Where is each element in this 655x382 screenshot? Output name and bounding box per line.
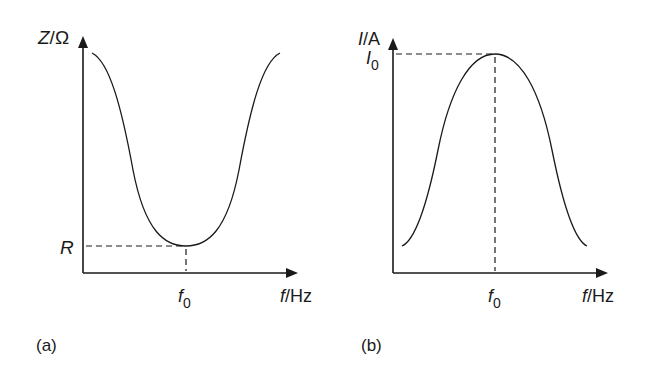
- x-axis-label-b: f/Hz: [582, 286, 614, 306]
- f0-marker-label-b: f0: [488, 286, 501, 311]
- x-axis-label-a: f/Hz: [280, 286, 312, 306]
- panel-b-caption: (b): [361, 336, 382, 355]
- y-axis-arrow-b: [388, 38, 398, 50]
- x-axis-arrow-b: [596, 268, 608, 278]
- y-axis-label-b: I/A: [358, 29, 380, 49]
- i0-marker-label: I0: [366, 48, 379, 73]
- f0-marker-label-a: f0: [178, 286, 191, 311]
- panel-a-caption: (a): [36, 336, 57, 355]
- panel-a: Z/Ω R f0 f/Hz (a): [36, 27, 312, 355]
- x-axis-arrow-a: [286, 268, 298, 278]
- resonance-figure: Z/Ω R f0 f/Hz (a) I/A I0 f0 f/Hz (b): [0, 0, 655, 382]
- y-axis-arrow-a: [78, 36, 88, 48]
- impedance-curve: [92, 53, 280, 246]
- y-axis-label-a: Z/Ω: [37, 27, 69, 48]
- r-marker-label: R: [60, 237, 74, 258]
- panel-b: I/A I0 f0 f/Hz (b): [358, 29, 614, 355]
